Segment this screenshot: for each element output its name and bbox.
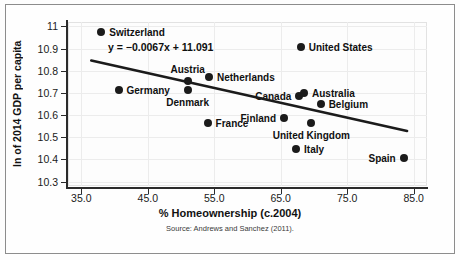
y-axis-tick-mark: [61, 182, 67, 183]
data-point: [400, 154, 408, 162]
gridline-horizontal: [68, 93, 427, 94]
data-point-label: United States: [309, 42, 373, 53]
x-axis-tick-label: 85.0: [403, 192, 423, 204]
source-note: Source: Andrews and Sanchez (2011).: [0, 224, 460, 233]
y-axis-tick-label: 11: [47, 20, 58, 32]
y-axis-title: ln of 2014 GDP per capita: [8, 22, 26, 186]
x-axis-tick-label: 45.0: [138, 192, 158, 204]
data-point-label: Finland: [241, 112, 277, 123]
y-axis-tick-label: 10.5: [38, 131, 58, 143]
data-point-label: Italy: [304, 143, 324, 154]
y-axis-tick-mark: [61, 93, 67, 94]
data-point-label: Belgium: [329, 98, 368, 109]
data-point-label: Denmark: [166, 97, 209, 108]
data-point-label: Spain: [368, 152, 395, 163]
data-point-label: Switzerland: [109, 26, 165, 37]
data-point: [292, 145, 300, 153]
data-point: [184, 77, 192, 85]
data-point: [317, 100, 325, 108]
x-axis-tick-label: 65.0: [271, 192, 291, 204]
data-point-label: Canada: [255, 90, 291, 101]
x-axis-tick-label: 55.0: [204, 192, 224, 204]
y-axis-tick-label: 10.9: [38, 43, 58, 55]
data-point-label: Austria: [170, 64, 204, 75]
data-point: [300, 89, 308, 97]
y-axis-tick-mark: [61, 159, 67, 160]
data-point: [184, 86, 192, 94]
gridline-horizontal: [68, 182, 427, 183]
y-axis-tick-mark: [61, 26, 67, 27]
x-axis-title: % Homeownership (c.2004): [0, 207, 460, 219]
y-axis-tick-label: 10.7: [38, 87, 58, 99]
y-axis-tick-label: 10.4: [38, 153, 58, 165]
y-axis-line: [66, 20, 68, 188]
trendline-equation-label: y = −0.0067x + 11.091: [108, 41, 213, 53]
data-point-label: Netherlands: [217, 71, 275, 82]
gridline-horizontal: [68, 137, 427, 138]
x-axis-tick-label: 75.0: [337, 192, 357, 204]
data-point: [307, 119, 315, 127]
x-axis-tick-label: 35.0: [71, 192, 91, 204]
y-axis-tick-label: 10.3: [38, 176, 58, 188]
gridline-vertical: [281, 22, 282, 186]
gridline-vertical: [414, 22, 415, 186]
data-point: [204, 119, 212, 127]
gridline-vertical: [214, 22, 215, 186]
data-point-label: Australia: [312, 87, 355, 98]
data-point-label: Germany: [127, 85, 170, 96]
y-axis-tick-mark: [61, 137, 67, 138]
y-axis-tick-mark: [61, 71, 67, 72]
y-axis-tick-mark: [61, 115, 67, 116]
chart-figure: SwitzerlandGermanyAustriaDenmarkNetherla…: [0, 0, 460, 260]
y-axis-tick-label: 10.8: [38, 65, 58, 77]
gridline-vertical: [81, 22, 82, 186]
data-point: [205, 73, 213, 81]
y-axis-tick-label: 10.6: [38, 109, 58, 121]
data-point-label: United Kingdom: [273, 130, 350, 141]
data-point: [115, 86, 123, 94]
y-axis-tick-mark: [61, 49, 67, 50]
x-axis-line: [66, 187, 428, 189]
data-point: [280, 114, 288, 122]
